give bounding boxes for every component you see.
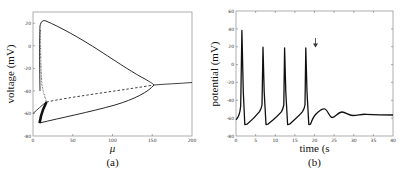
ytick-label: 20 (25, 21, 31, 26)
plot-a-y-tick-labels: 20 0 -20 -40 -60 -80 (24, 21, 31, 139)
plot-b-ylabel: potential (mV) (208, 41, 221, 106)
ytick-label: 20 (228, 44, 234, 49)
periodic-min-curve (40, 85, 155, 123)
panel-a: 20 0 -20 -40 -60 -80 0 50 100 150 200 (4, 12, 196, 169)
xtick-label: 25 (331, 138, 337, 143)
ytick-label: 0 (231, 62, 234, 67)
ytick-label: -20 (24, 66, 31, 71)
figure: 20 0 -20 -40 -60 -80 0 50 100 150 200 (0, 0, 407, 173)
plot-b-y-tick-labels: 60 40 20 0 -20 -40 -60 -80 (227, 9, 234, 139)
xtick-label: 10 (272, 138, 278, 143)
panel-b: 60 40 20 0 -20 -40 -60 -80 0 (208, 9, 396, 170)
plot-b-x-ticks (256, 11, 374, 136)
plot-a-xlabel: μ (109, 142, 116, 154)
arrow-down-icon (313, 38, 318, 48)
ytick-label: -40 (227, 98, 234, 103)
xtick-label: 150 (148, 138, 157, 143)
xtick-label: 200 (188, 138, 197, 143)
ytick-label: 40 (228, 27, 234, 32)
ytick-label: -60 (24, 111, 31, 116)
ytick-label: -80 (227, 134, 234, 139)
unstable-periodic-curve (41, 30, 47, 102)
ytick-label: 60 (228, 9, 234, 14)
ytick-label: -80 (24, 134, 31, 139)
plot-a-caption: (a) (106, 156, 119, 169)
stable-equilibrium-high-curve (154, 83, 192, 86)
xtick-label: 0 (32, 138, 35, 143)
plot-a-ylabel: voltage (mV) (4, 44, 17, 103)
xtick-label: 0 (235, 138, 238, 143)
xtick-label: 30 (351, 138, 357, 143)
unstable-equilibrium-curve (47, 85, 155, 102)
plot-b-frame (236, 11, 393, 136)
ytick-label: -20 (227, 80, 234, 85)
xtick-label: 5 (254, 138, 257, 143)
xtick-label: 15 (292, 138, 298, 143)
plot-b-caption: (b) (308, 156, 321, 169)
plot-a-frame (33, 12, 192, 136)
xtick-label: 40 (390, 138, 396, 143)
ytick-label: 0 (28, 44, 31, 49)
ytick-label: -60 (227, 116, 234, 121)
plot-b-y-ticks (236, 29, 393, 118)
xtick-label: 50 (70, 138, 76, 143)
plot-b-xlabel: time (s (299, 142, 329, 155)
xtick-label: 35 (371, 138, 377, 143)
periodic-max-curve (40, 21, 154, 91)
plot-a-curves (33, 21, 192, 123)
ytick-label: -40 (24, 89, 31, 94)
